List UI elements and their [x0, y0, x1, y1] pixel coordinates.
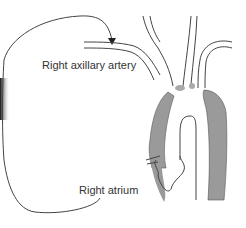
label-right-atrium: Right atrium [79, 185, 138, 196]
pulmonary-artery-outline [180, 116, 196, 200]
left-carotid-vessel [183, 16, 191, 86]
ascending-aorta-wall [149, 92, 174, 168]
clamp-marker [175, 85, 185, 91]
right-carotid-vessel [143, 16, 173, 86]
bypass-circuit-diagram: Right axillary artery Right atrium [0, 0, 246, 228]
left-edge-shadow [0, 78, 10, 120]
left-subclavian-vessel [198, 41, 232, 88]
arrowhead-icon [108, 38, 116, 45]
descending-aorta-wall [203, 90, 227, 200]
clamp-marker [189, 83, 195, 89]
label-right-axillary-artery: Right axillary artery [42, 60, 136, 71]
